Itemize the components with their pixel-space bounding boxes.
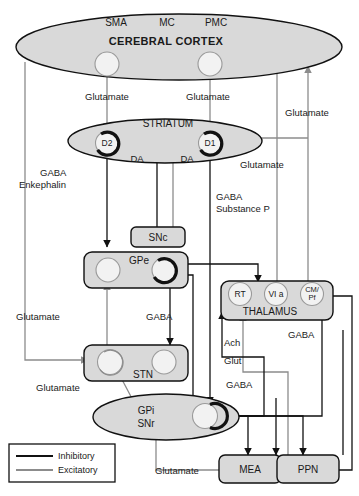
label-glutamate-cortex-d1: Glutamate [186,91,230,102]
legend-label-inhibitory: Inhibitory [58,451,95,461]
label-gaba-gpe-stn: GABA [146,311,173,322]
label-glutamate-mea-gpi: Glutamate [155,465,199,476]
cortex-neuron-right [198,52,222,76]
legend-box [9,444,115,482]
cortex-title: CEREBRAL CORTEX [109,35,224,47]
striatum-node-d1-label: D1 [205,138,216,148]
cortex-ellipse [16,14,342,80]
label-glut-ppn-thalamus: Glut [224,355,242,366]
gpe-neuron-left [96,258,120,282]
cortex-neuron-left [95,52,119,76]
striatum-node-d2-label: D2 [102,138,113,148]
label-ach-ppn-thalamus: Ach [224,337,240,348]
region-gpi-snr[interactable]: GPi SNr [93,394,239,440]
label-gaba-substancep-2: Substance P [216,203,270,214]
cortex-area-sma-label: SMA [105,17,127,28]
legend-label-excitatory: Excitatory [58,465,98,475]
snr-label: SNr [137,418,155,429]
gpi-label: GPi [138,405,155,416]
region-striatum[interactable]: STRIATUM D2 D1 [68,118,262,163]
legend: Inhibitory Excitatory [9,444,115,482]
region-mea[interactable]: MEA [219,455,281,483]
path-gpe-to-gpi [188,275,193,404]
path-ppn-to-cmpf-link [318,296,352,470]
label-glutamate-stn-gpi: Glutamate [36,382,80,393]
thalamus-node-cmpf-label-2: Pf [308,293,316,302]
region-cerebral-cortex[interactable]: SMA MC PMC CEREBRAL CORTEX [16,14,342,80]
region-stn[interactable]: STN [84,345,188,381]
stn-label: STN [133,369,153,380]
snc-label: SNc [149,232,168,243]
path-gpe-to-thalamus-rt [188,264,258,282]
label-gaba-substancep-1: GABA [216,191,243,202]
cortex-area-pmc-label: PMC [205,17,227,28]
region-thalamus[interactable]: RT VI a CM/ Pf THALAMUS [221,281,333,320]
diagram-canvas: SMA MC PMC CEREBRAL CORTEX STRIATUM D2 D… [0,0,359,496]
label-glutamate-cmpf-striatum: Glutamate [240,159,284,170]
label-glutamate-thalamus-cortex: Glutamate [285,107,329,118]
mea-label: MEA [239,464,261,475]
label-gaba-gpi-ppn: GABA [226,379,253,390]
label-glutamate-stn-left: Glutamate [16,311,60,322]
thalamus-label: THALAMUS [243,306,298,317]
region-ppn[interactable]: PPN [277,455,339,483]
striatum-label: STRIATUM [143,118,193,129]
region-gpe[interactable]: GPe [84,252,188,288]
region-snc[interactable]: SNc [131,227,185,247]
gpi-neuron [193,404,218,429]
thalamus-node-vla-label: VI a [268,289,283,299]
cortex-area-mc-label: MC [159,17,175,28]
label-gaba-enkephalin-1: GABA [40,167,67,178]
label-gaba-gpi-thalamus: GABA [288,329,315,340]
label-glutamate-cortex-d2: Glutamate [85,91,129,102]
label-gaba-enkephalin-2: Enkephalin [19,179,66,190]
ppn-label: PPN [298,464,319,475]
label-da-left: DA [130,153,144,164]
thalamus-node-rt-label: RT [234,289,245,299]
stn-neuron-right [152,350,176,374]
label-da-right: DA [180,153,194,164]
gpe-label: GPe [129,255,149,266]
